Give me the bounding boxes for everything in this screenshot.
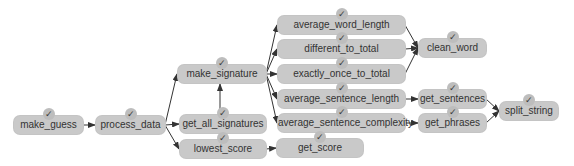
edge-exactly-once-to-total-to-clean-word (405, 48, 418, 74)
edge-make-signature-to-average-word-length (266, 25, 277, 74)
node-label: get_score (298, 142, 342, 153)
check-badge-icon: ✓ (125, 108, 137, 120)
edge-process-data-to-lowest-score (165, 125, 179, 149)
check-badge-icon: ✓ (217, 107, 229, 119)
node-different-to-total[interactable]: ✓different_to_total (278, 40, 405, 58)
node-label: average_sentence_length (284, 93, 399, 104)
edge-average-word-length-to-clean-word (405, 25, 418, 48)
node-label: make_signature (186, 68, 257, 79)
edge-get-phrases-to-split-string (486, 111, 499, 123)
check-badge-icon: ✓ (336, 106, 348, 118)
node-label: average_word_length (293, 19, 389, 30)
node-get-phrases[interactable]: ✓get_phrases (419, 114, 486, 132)
node-label: get_sentences (420, 93, 485, 104)
node-label: exactly_once_to_total (293, 68, 390, 79)
check-badge-icon: ✓ (216, 57, 228, 69)
edge-process-data-to-make-signature (165, 74, 177, 125)
node-label: average_sentence_complexity (278, 117, 413, 128)
node-average-sentence-complexity[interactable]: ✓average_sentence_complexity (278, 114, 405, 132)
edge-lowest-score-to-get-score (266, 148, 276, 149)
edge-make-signature-to-average-sentence-length (266, 74, 277, 99)
node-label: process_data (100, 119, 160, 130)
node-label: get_phrases (425, 117, 480, 128)
edge-make-signature-to-average-sentence-complexity (266, 74, 277, 123)
edge-get-sentences-to-split-string (486, 99, 499, 111)
check-badge-icon: ✓ (336, 82, 348, 94)
node-get-score[interactable]: ✓get_score (277, 139, 363, 157)
check-badge-icon: ✓ (217, 132, 229, 144)
check-badge-icon: ✓ (43, 108, 55, 120)
node-label: make_guess (20, 119, 77, 130)
check-badge-icon: ✓ (447, 31, 459, 43)
node-split-string[interactable]: ✓split_string (500, 102, 558, 120)
node-lowest-score[interactable]: ✓lowest_score (180, 140, 266, 158)
node-get-all-signatures[interactable]: ✓get_all_signatures (180, 115, 266, 133)
node-label: clean_word (427, 42, 478, 53)
check-badge-icon: ✓ (447, 106, 459, 118)
check-badge-icon: ✓ (523, 94, 535, 106)
node-clean-word[interactable]: ✓clean_word (419, 39, 486, 57)
check-badge-icon: ✓ (336, 8, 348, 20)
check-badge-icon: ✓ (447, 82, 459, 94)
edge-make-signature-to-different-to-total (266, 49, 277, 74)
check-badge-icon: ✓ (336, 32, 348, 44)
check-badge-icon: ✓ (314, 131, 326, 143)
call-graph-diagram: ✓make_guess✓process_data✓make_signature✓… (0, 0, 574, 166)
node-label: get_all_signatures (182, 118, 263, 129)
node-exactly-once-to-total[interactable]: ✓exactly_once_to_total (278, 65, 405, 83)
node-label: different_to_total (304, 43, 378, 54)
node-make-signature[interactable]: ✓make_signature (178, 65, 266, 83)
edge-different-to-total-to-clean-word (405, 48, 418, 49)
node-process-data[interactable]: ✓process_data (96, 116, 165, 134)
edge-process-data-to-get-all-signatures (165, 124, 179, 125)
node-label: lowest_score (194, 143, 252, 154)
node-make-guess[interactable]: ✓make_guess (14, 116, 83, 134)
check-badge-icon: ✓ (336, 57, 348, 69)
node-label: split_string (505, 105, 553, 116)
